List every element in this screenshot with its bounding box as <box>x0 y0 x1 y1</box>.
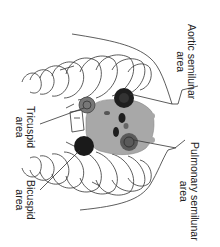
marker-pulmonary <box>120 133 138 151</box>
label-bicuspid-line1: Bicuspid <box>25 180 36 220</box>
label-pulmonary: Pulmonary semilunar area <box>178 142 200 241</box>
marker-aortic <box>114 88 134 108</box>
heart <box>86 100 155 155</box>
label-bicuspid-line2: area <box>14 180 25 220</box>
label-pulmonary-line2: area <box>178 142 189 241</box>
label-aortic-line1: Aortic semilunar <box>186 24 197 99</box>
label-aortic-line2: area <box>175 24 186 99</box>
label-aortic: Aortic semilunar area <box>175 24 197 99</box>
label-pulmonary-line1: Pulmonary semilunar <box>189 142 200 241</box>
label-tricuspid-line2: area <box>14 106 25 148</box>
label-tricuspid: Tricuspid area <box>14 106 36 148</box>
label-tricuspid-line1: Tricuspid <box>25 106 36 148</box>
label-bicuspid: Bicuspid area <box>14 180 36 220</box>
marker-tricuspid <box>79 97 95 113</box>
